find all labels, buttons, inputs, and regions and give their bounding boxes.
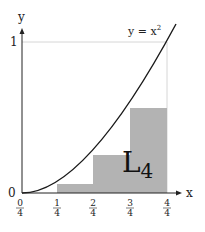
x-tick-1: 1 4 bbox=[53, 198, 61, 218]
x-tick-0: 0 4 bbox=[16, 198, 24, 218]
x-tick-4: 4 4 bbox=[163, 198, 171, 218]
riemann-sum-diagram: L4 x y 0 1 y = x2 0 4 1 4 2 4 3 bbox=[0, 0, 205, 232]
x-axis-arrow-icon bbox=[176, 191, 182, 196]
y-axis-label: y bbox=[17, 10, 25, 24]
svg-text:4: 4 bbox=[127, 208, 133, 218]
x-tick-3: 3 4 bbox=[126, 198, 134, 218]
svg-text:4: 4 bbox=[164, 198, 170, 208]
svg-text:0: 0 bbox=[17, 198, 23, 208]
origin-label: 0 bbox=[8, 186, 16, 200]
svg-text:4: 4 bbox=[164, 208, 170, 218]
y-tick-1-label: 1 bbox=[10, 35, 18, 49]
svg-text:2: 2 bbox=[90, 198, 96, 208]
x-axis-label: x bbox=[186, 186, 193, 200]
function-label: y = x2 bbox=[127, 24, 161, 38]
svg-text:3: 3 bbox=[127, 198, 133, 208]
y-axis-arrow-icon bbox=[20, 28, 25, 34]
rectangle-2 bbox=[57, 184, 93, 193]
x-tick-labels: 0 4 1 4 2 4 3 4 4 4 bbox=[16, 198, 171, 218]
svg-text:4: 4 bbox=[90, 208, 96, 218]
x-tick-2: 2 4 bbox=[89, 198, 97, 218]
svg-text:4: 4 bbox=[54, 208, 60, 218]
svg-text:4: 4 bbox=[17, 208, 23, 218]
svg-text:1: 1 bbox=[54, 198, 60, 208]
